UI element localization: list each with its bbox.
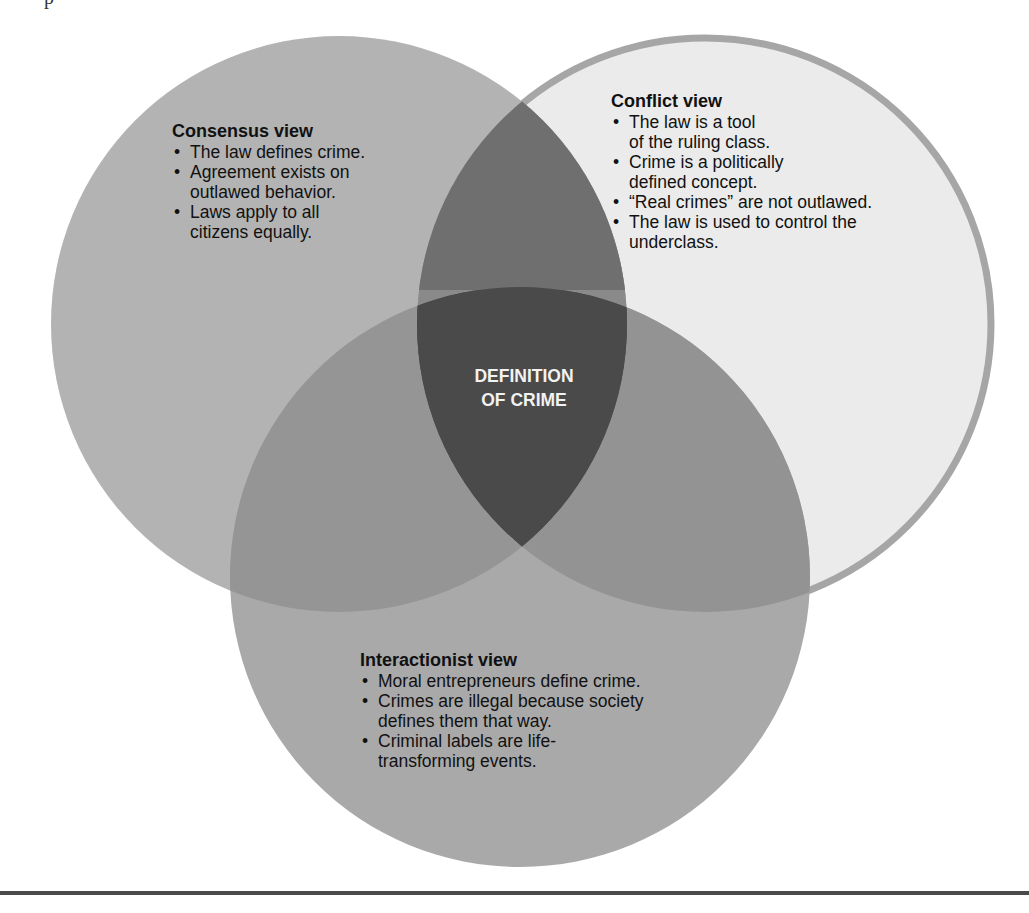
- consensus-bullets: The law defines crime. Agreement exists …: [172, 142, 365, 242]
- conflict-bullet: The law is used to control theunderclass…: [611, 212, 872, 252]
- conflict-bullets: The law is a toolof the ruling class. Cr…: [611, 112, 872, 252]
- interactionist-bullet: Moral entrepreneurs define crime.: [360, 671, 644, 691]
- consensus-label: Consensus view The law defines crime. Ag…: [172, 121, 365, 242]
- conflict-title: Conflict view: [611, 91, 872, 111]
- interactionist-title: Interactionist view: [360, 650, 644, 670]
- conflict-bullet: “Real crimes” are not outlawed.: [611, 192, 872, 212]
- venn-diagram: [0, 0, 1029, 913]
- interactionist-bullet: Crimes are illegal because societydefine…: [360, 691, 644, 731]
- consensus-bullet: The law defines crime.: [172, 142, 365, 162]
- conflict-bullet: The law is a toolof the ruling class.: [611, 112, 872, 152]
- bottom-rule-divider: [0, 891, 1029, 895]
- consensus-bullet: Agreement exists onoutlawed behavior.: [172, 162, 365, 202]
- interactionist-bullets: Moral entrepreneurs define crime. Crimes…: [360, 671, 644, 771]
- consensus-bullet: Laws apply to allcitizens equally.: [172, 202, 365, 242]
- interactionist-label: Interactionist view Moral entrepreneurs …: [360, 650, 644, 771]
- conflict-bullet: Crime is a politicallydefined concept.: [611, 152, 872, 192]
- consensus-title: Consensus view: [172, 121, 365, 141]
- interactionist-bullet: Criminal labels are life-transforming ev…: [360, 731, 644, 771]
- definition-of-crime-label: DEFINITION OF CRIME: [449, 364, 599, 412]
- conflict-label: Conflict view The law is a toolof the ru…: [611, 91, 872, 252]
